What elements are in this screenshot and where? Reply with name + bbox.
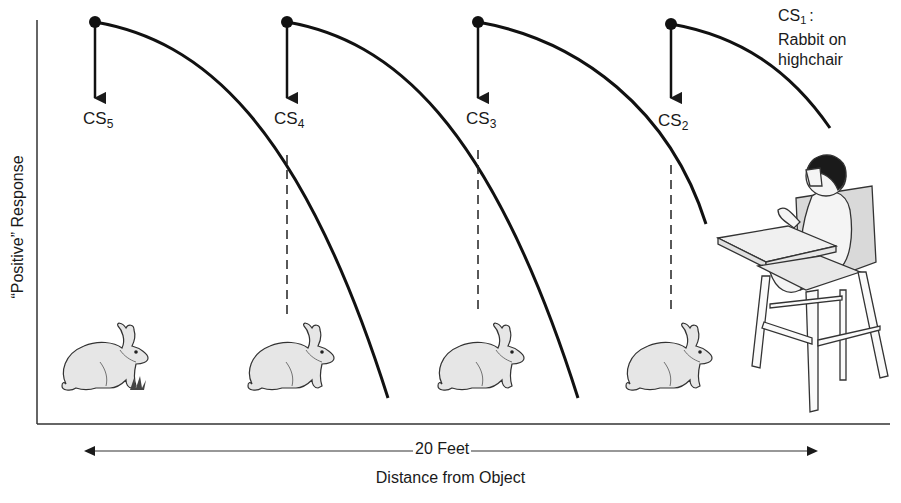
diagram-graphics	[0, 0, 901, 503]
label-cs2: CS2	[658, 112, 688, 132]
cs2-subscript: 2	[682, 119, 689, 133]
distance-label: 20 Feet	[413, 440, 471, 458]
infant-in-highchair	[718, 155, 888, 412]
label-cs5: CS5	[83, 110, 113, 130]
cs4-subscript: 4	[298, 117, 305, 131]
cs1-description-line2: highchair	[778, 50, 847, 70]
label-cs4: CS4	[274, 110, 304, 130]
gradient-curve-cs4	[281, 16, 578, 398]
cs5-subscript: 5	[107, 117, 114, 131]
x-axis-label: Distance from Object	[0, 469, 901, 487]
rabbit-cs3	[438, 323, 524, 390]
cs1-subscript: 1	[800, 14, 806, 26]
cs2-name: CS	[658, 111, 682, 130]
cs3-subscript: 3	[490, 117, 497, 131]
rabbit-cs5	[62, 323, 148, 390]
cs5-name: CS	[83, 109, 107, 128]
y-axis-label: “Positive” Response	[9, 152, 27, 302]
label-cs1: CS1: Rabbit on highchair	[778, 6, 847, 70]
cs1-description-line1: Rabbit on	[778, 30, 847, 50]
generalization-gradient-diagram: CS5 CS4 CS3 CS2 CS1: Rabbit on highchair…	[0, 0, 901, 503]
cs1-colon: :	[809, 7, 813, 24]
rabbit-cs4	[248, 323, 334, 390]
rabbit-cs2	[626, 323, 712, 390]
cs3-name: CS	[466, 109, 490, 128]
cs1-name: CS	[778, 7, 800, 24]
label-cs3: CS3	[466, 110, 496, 130]
cs4-name: CS	[274, 109, 298, 128]
cs1-title: CS1:	[778, 6, 847, 30]
